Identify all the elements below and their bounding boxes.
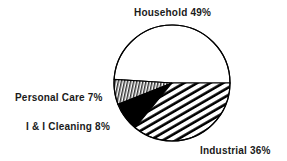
label-ii-cleaning: I & I Cleaning 8% [26, 121, 110, 132]
slice-household [114, 25, 230, 83]
label-household: Household 49% [134, 7, 211, 18]
label-personal-care: Personal Care 7% [15, 92, 103, 103]
pie-chart [0, 0, 287, 161]
label-industrial: Industrial 36% [200, 145, 271, 156]
